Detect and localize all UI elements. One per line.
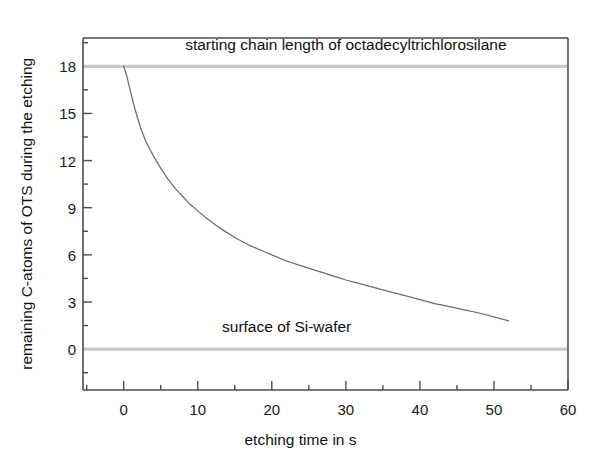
y-tick-label: 12 <box>48 153 76 168</box>
y-tick-label: 3 <box>48 295 76 310</box>
x-tick-label: 30 <box>338 402 355 417</box>
x-tick-label: 60 <box>560 402 577 417</box>
x-axis-ticks <box>87 381 568 390</box>
x-tick-label: 20 <box>263 402 280 417</box>
x-tick-label: 10 <box>189 402 206 417</box>
chart-figure: 0369121518 0102030405060 starting chain … <box>0 0 601 464</box>
y-tick-label: 18 <box>48 59 76 74</box>
si-wafer-surface-line-label: surface of Si-wafer <box>222 319 351 335</box>
starting-chain-length-line-label: starting chain length of octadecyltrichl… <box>185 37 506 53</box>
y-axis-label: remaining C-atoms of OTS during the etch… <box>19 49 35 379</box>
y-tick-label: 9 <box>48 200 76 215</box>
data-series <box>124 66 509 321</box>
y-tick-label: 0 <box>48 342 76 357</box>
plot-frame <box>83 38 568 390</box>
x-axis-label: etching time in s <box>0 432 601 448</box>
y-tick-label: 6 <box>48 247 76 262</box>
reference-lines <box>84 66 567 349</box>
x-tick-label: 0 <box>120 402 128 417</box>
plot-canvas <box>0 0 601 464</box>
y-tick-label: 15 <box>48 106 76 121</box>
x-tick-label: 50 <box>486 402 503 417</box>
y-axis-ticks <box>83 43 92 373</box>
x-tick-label: 40 <box>412 402 429 417</box>
